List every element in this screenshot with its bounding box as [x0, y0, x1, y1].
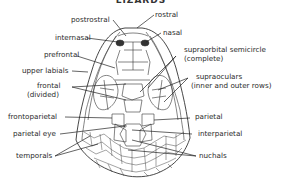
label-upper-labials: upper labials — [22, 67, 68, 75]
label-frontal: frontal — [37, 82, 61, 90]
label-supraoculars-sub: (inner and outer rows) — [191, 82, 271, 90]
label-temporals: temporals — [16, 152, 52, 160]
label-postrostral: postrostral — [71, 16, 110, 24]
lizard-head-scales-diagram: LIZARDS — [0, 0, 282, 179]
label-internasal: internasal — [55, 34, 91, 42]
label-rostral: rostral — [155, 11, 178, 19]
label-nuchals: nuchals — [199, 152, 227, 160]
label-supraorbital-sub: (complete) — [184, 55, 223, 63]
label-supraoculars: supraoculars — [196, 73, 242, 81]
label-frontoparietal: frontoparietal — [8, 113, 57, 121]
label-nasal: nasal — [163, 29, 182, 37]
label-supraorbital: supraorbital semicircle — [184, 46, 266, 54]
label-parietal-eye: parietal eye — [13, 130, 56, 138]
label-interparietal: interparietal — [198, 130, 242, 138]
label-frontal-sub: (divided) — [27, 91, 59, 99]
label-parietal: parietal — [195, 113, 223, 121]
label-prefrontal: prefrontal — [44, 51, 79, 59]
